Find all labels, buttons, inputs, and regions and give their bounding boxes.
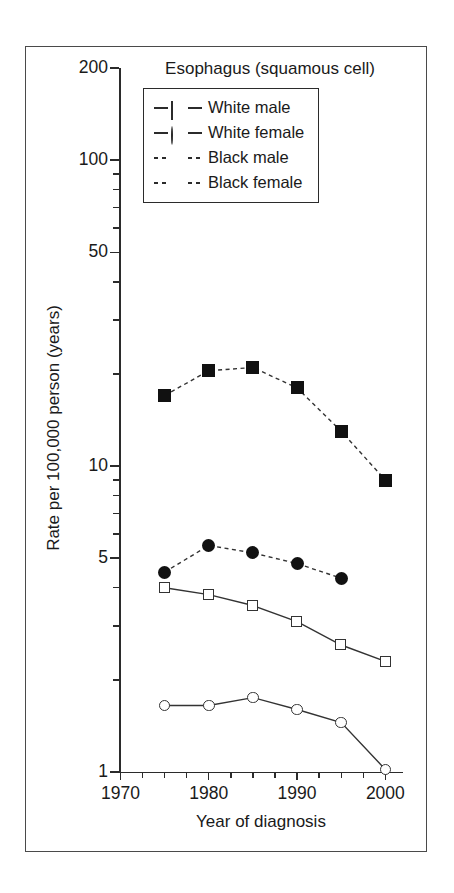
y-major-tick: [110, 771, 119, 772]
legend-label-black-male: Black male: [208, 148, 289, 167]
y-major-tick: [110, 557, 119, 558]
y-tick-label: 50: [62, 243, 108, 261]
data-point-black-male: [379, 474, 392, 487]
x-minor-tick: [318, 772, 319, 778]
data-point-black-male: [158, 389, 171, 402]
x-minor-tick: [274, 772, 275, 778]
x-minor-tick: [186, 772, 187, 778]
chart-plot-area: Esophagus (squamous cell) Year of diagno…: [0, 0, 454, 893]
data-point-black-female: [158, 566, 171, 579]
chart-legend: White male White female Black male: [143, 88, 319, 203]
data-point-black-male: [335, 425, 348, 438]
y-minor-tick: [113, 533, 119, 534]
legend-item-black-male: Black male: [152, 145, 310, 170]
data-point-white-male: [203, 589, 214, 600]
data-point-white-female: [203, 700, 215, 712]
y-major-tick: [110, 252, 119, 253]
y-minor-tick: [113, 281, 119, 282]
y-tick-label: 100: [62, 151, 108, 169]
data-point-black-female: [246, 546, 259, 559]
legend-item-white-female: White female: [152, 120, 310, 145]
y-axis-line: [119, 68, 121, 773]
y-minor-tick: [113, 207, 119, 208]
series-line-white-female: [165, 698, 386, 770]
y-major-tick: [110, 67, 119, 68]
y-minor-tick: [113, 679, 119, 680]
x-tick-label: 1990: [262, 783, 332, 803]
data-point-white-male: [159, 582, 170, 593]
data-point-white-female: [380, 764, 392, 776]
data-point-black-male: [246, 361, 259, 374]
x-major-tick: [120, 772, 121, 780]
y-minor-tick: [113, 513, 119, 514]
legend-key-black-male: [152, 148, 204, 168]
legend-label-black-female: Black female: [208, 173, 302, 192]
y-minor-tick: [113, 227, 119, 228]
x-minor-tick: [363, 772, 364, 778]
y-tick-label: 5: [62, 549, 108, 567]
data-point-black-male: [202, 364, 215, 377]
x-minor-tick: [341, 772, 342, 778]
data-point-white-male: [335, 639, 346, 650]
y-minor-tick: [113, 173, 119, 174]
x-axis-line: [119, 772, 403, 774]
series-line-black-male: [165, 368, 386, 481]
legend-key-white-male: [152, 98, 204, 118]
y-minor-tick: [113, 373, 119, 374]
y-major-tick: [110, 159, 119, 160]
y-minor-tick: [113, 189, 119, 190]
data-point-white-male: [291, 616, 302, 627]
x-minor-tick: [142, 772, 143, 778]
x-minor-tick: [164, 772, 165, 778]
x-major-tick: [296, 772, 297, 780]
y-axis-title: Rate per 100,000 person (years): [44, 278, 64, 578]
y-minor-tick: [113, 479, 119, 480]
chart-title: Esophagus (squamous cell): [140, 59, 400, 79]
y-minor-tick: [113, 319, 119, 320]
x-major-tick: [208, 772, 209, 780]
data-point-black-male: [291, 381, 304, 394]
x-minor-tick: [252, 772, 253, 778]
y-tick-label: 10: [62, 457, 108, 475]
y-minor-tick: [113, 587, 119, 588]
data-point-black-female: [202, 539, 215, 552]
y-tick-label: 1: [62, 763, 108, 781]
x-tick-label: 1970: [86, 783, 156, 803]
data-point-black-female: [335, 572, 348, 585]
x-tick-label: 2000: [350, 783, 420, 803]
data-point-white-female: [159, 700, 171, 712]
x-tick-label: 1980: [174, 783, 244, 803]
data-point-white-male: [380, 656, 391, 667]
data-point-white-female: [335, 717, 347, 729]
y-minor-tick: [113, 625, 119, 626]
legend-label-white-female: White female: [208, 123, 304, 142]
x-axis-title: Year of diagnosis: [119, 812, 403, 832]
y-tick-label: 200: [62, 59, 108, 77]
data-point-white-male: [247, 600, 258, 611]
open-circle-icon: [171, 126, 173, 145]
legend-label-white-male: White male: [208, 98, 291, 117]
legend-item-black-female: Black female: [152, 170, 310, 195]
data-point-black-female: [291, 557, 304, 570]
x-minor-tick: [230, 772, 231, 778]
data-point-white-female: [247, 692, 259, 704]
legend-key-white-female: [152, 123, 204, 143]
y-minor-tick: [113, 495, 119, 496]
legend-item-white-male: White male: [152, 95, 310, 120]
open-square-icon: [171, 101, 173, 120]
legend-key-black-female: [152, 173, 204, 193]
y-major-tick: [110, 465, 119, 466]
data-point-white-female: [291, 704, 303, 716]
series-line-white-male: [165, 588, 386, 662]
